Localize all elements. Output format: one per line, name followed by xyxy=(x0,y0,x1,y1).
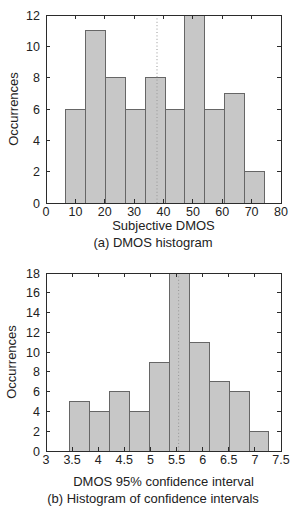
y-tick-label: 4 xyxy=(33,405,40,419)
histogram-bar xyxy=(245,172,265,203)
y-tick-label: 10 xyxy=(26,346,40,360)
y-tick-label: 14 xyxy=(26,306,40,320)
x-tick-label: 0 xyxy=(43,205,50,219)
histogram-bar xyxy=(165,109,185,203)
y-tick-label: 18 xyxy=(26,267,40,281)
x-tick-label: 6.5 xyxy=(220,453,237,467)
histogram-bar xyxy=(89,411,109,451)
figure-b-y-axis-label: Occurrences xyxy=(5,273,19,451)
figure-page: 01020304050607080024681012 Occurrences S… xyxy=(0,0,306,519)
figure-b-caption: (b) Histogram of confidence intervals xyxy=(0,491,306,506)
histogram-bar xyxy=(210,382,230,451)
figure-a-x-axis-label: Subjective DMOS xyxy=(46,218,281,233)
x-tick-label: 4 xyxy=(95,453,102,467)
x-tick-label: 5 xyxy=(147,453,154,467)
figure-a-caption: (a) DMOS histogram xyxy=(0,235,306,250)
histogram-bar xyxy=(70,402,90,451)
dmos-histogram-plot: 01020304050607080024681012 xyxy=(0,0,306,255)
x-tick-label: 3.5 xyxy=(63,453,80,467)
x-tick-label: 10 xyxy=(68,205,82,219)
histogram-bar xyxy=(125,109,145,203)
y-tick-label: 0 xyxy=(33,197,40,211)
x-tick-label: 7.5 xyxy=(272,453,289,467)
x-tick-label: 7 xyxy=(251,453,258,467)
y-tick-label: 12 xyxy=(26,326,40,340)
figure-a-dmos-histogram: 01020304050607080024681012 Occurrences S… xyxy=(0,0,306,255)
x-tick-label: 20 xyxy=(98,205,112,219)
x-tick-label: 70 xyxy=(245,205,259,219)
y-tick-label: 8 xyxy=(33,365,40,379)
figure-a-y-axis-label: Occurrences xyxy=(7,15,21,203)
histogram-bar xyxy=(149,362,169,451)
y-tick-label: 6 xyxy=(33,103,40,117)
y-tick-label: 12 xyxy=(26,9,40,23)
histogram-bar xyxy=(105,78,125,203)
histogram-bar xyxy=(145,78,165,203)
x-tick-label: 30 xyxy=(127,205,141,219)
x-tick-label: 6 xyxy=(199,453,206,467)
x-tick-label: 50 xyxy=(186,205,200,219)
histogram-bar xyxy=(229,392,249,451)
y-tick-label: 0 xyxy=(33,445,40,459)
x-tick-label: 4.5 xyxy=(116,453,133,467)
histogram-bar xyxy=(205,109,225,203)
histogram-bar xyxy=(185,15,205,203)
y-tick-label: 10 xyxy=(26,40,40,54)
x-tick-label: 60 xyxy=(215,205,229,219)
histogram-bar xyxy=(249,431,269,451)
x-tick-label: 40 xyxy=(157,205,171,219)
y-tick-label: 6 xyxy=(33,385,40,399)
histogram-bar xyxy=(65,109,85,203)
histogram-bar xyxy=(109,392,129,451)
histogram-bar xyxy=(130,411,150,451)
y-tick-label: 2 xyxy=(33,425,40,439)
x-tick-label: 80 xyxy=(274,205,288,219)
histogram-bar xyxy=(85,31,105,203)
y-tick-label: 2 xyxy=(33,165,40,179)
y-tick-label: 8 xyxy=(33,71,40,85)
x-tick-label: 5.5 xyxy=(168,453,185,467)
y-tick-label: 4 xyxy=(33,134,40,148)
figure-b-x-axis-label: DMOS 95% confidence interval xyxy=(46,474,281,489)
histogram-bar xyxy=(225,93,245,203)
y-tick-label: 16 xyxy=(26,286,40,300)
histogram-bar xyxy=(189,342,209,451)
x-tick-label: 3 xyxy=(43,453,50,467)
figure-b-ci-histogram: 33.544.555.566.577.5024681012141618 Occu… xyxy=(0,255,306,519)
